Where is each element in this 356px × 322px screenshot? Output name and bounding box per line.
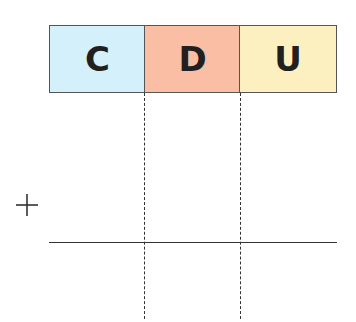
- divider-d-u-dashed: [240, 93, 241, 319]
- column-u-units: U: [239, 25, 337, 93]
- sum-line: [49, 242, 337, 243]
- column-c-hundreds: C: [49, 25, 146, 93]
- plus-sign-icon: [14, 192, 40, 218]
- column-d-tens: D: [144, 25, 241, 93]
- divider-c-d-dashed: [144, 93, 145, 319]
